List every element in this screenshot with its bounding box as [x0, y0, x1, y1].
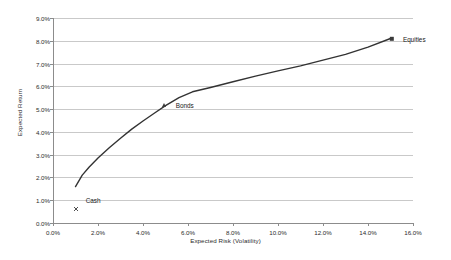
x-axis-tick-labels: 0.0%2.0%4.0%6.0%8.0%10.0%12.0%14.0%16.0%	[0, 0, 451, 260]
x-tick-label: 10.0%	[269, 229, 287, 236]
y-axis-title-container: Expected Return	[13, 0, 27, 225]
x-tick-label: 8.0%	[226, 229, 240, 236]
efficient-frontier-chart: CashBondsEquities 0.0%1.0%2.0%3.0%4.0%5.…	[0, 0, 451, 260]
x-tick-label: 4.0%	[136, 229, 150, 236]
x-tick-label: 16.0%	[404, 229, 422, 236]
x-tick-label: 14.0%	[359, 229, 377, 236]
x-tick-label: 0.0%	[46, 229, 60, 236]
x-tick-label: 12.0%	[314, 229, 332, 236]
x-tick-label: 2.0%	[91, 229, 105, 236]
x-axis-title: Expected Risk (Volatility)	[0, 237, 451, 244]
y-axis-title: Expected Return	[17, 89, 24, 137]
x-tick-label: 6.0%	[181, 229, 195, 236]
